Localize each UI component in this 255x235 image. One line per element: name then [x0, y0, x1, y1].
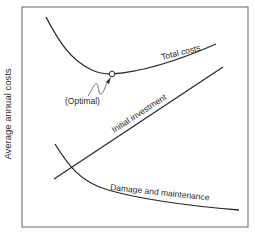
damage-maintenance-label: Damage and maintenance	[110, 182, 210, 202]
damage-maintenance-curve	[55, 144, 239, 210]
initial-investment-label: Initial investment	[110, 91, 169, 134]
y-axis-label: Average annual costs	[2, 68, 13, 159]
optimal-leader-line	[88, 81, 108, 96]
optimal-label: (Optimal)	[65, 96, 100, 106]
cost-diagram: Average annual costs Total costs Initial…	[0, 0, 255, 235]
total-costs-label: Total costs	[160, 43, 201, 62]
optimal-point-marker	[109, 71, 115, 77]
initial-investment-line	[54, 67, 223, 179]
